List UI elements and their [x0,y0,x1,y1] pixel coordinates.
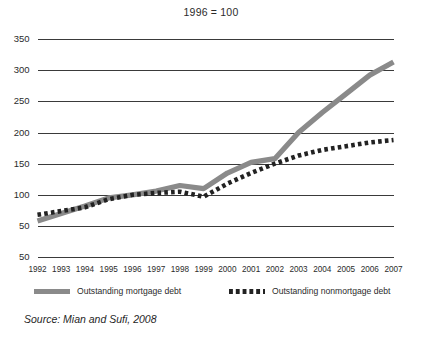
x-axis-tick-label: 1994 [76,265,95,274]
dotted-line-swatch-icon [229,289,265,294]
y-axis-tick-labels: 3503002502001501005050 [14,33,30,262]
y-axis-tick-label: 150 [14,158,30,169]
source-note: Source: Mian and Sufi, 2008 [24,313,157,325]
y-axis-tick-label: 50 [19,251,30,262]
legend-label-nonmortgage: Outstanding nonmortgage debt [272,286,391,296]
x-axis-tick-label: 2005 [337,265,356,274]
x-axis-tick-label: 1999 [195,265,214,274]
y-axis-tick-label: 100 [14,189,30,200]
x-axis-tick-label: 1993 [52,265,71,274]
x-axis-tick-label: 2002 [266,265,285,274]
x-axis-tick-label: 1995 [100,265,119,274]
x-axis-tick-label: 2007 [384,265,403,274]
data-series-line-1 [38,62,394,221]
x-axis-tick-label: 2003 [289,265,308,274]
chart-legend: Outstanding mortgage debt Outstanding no… [0,286,422,304]
x-axis-tick-label: 2006 [361,265,380,274]
y-axis-tick-label: 250 [14,95,30,106]
chart-figure: 1996 = 100 3503002502001501005050 199219… [0,0,422,337]
y-axis-tick-label: 300 [14,64,30,75]
y-axis-tick-label: 200 [14,127,30,138]
x-axis-tick-label: 2004 [313,265,332,274]
data-series-group [38,62,394,221]
legend-item-outstanding-mortgage-debt: Outstanding mortgage debt [34,286,181,296]
x-axis-tick-label: 1992 [28,265,47,274]
x-axis-tick-label: 2001 [242,265,261,274]
legend-label-mortgage: Outstanding mortgage debt [77,286,181,296]
y-axis-tick-label: 50 [19,220,30,231]
data-series-line-2 [38,140,394,215]
x-axis-tick-label: 1998 [171,265,190,274]
x-axis-tick-label: 1996 [123,265,142,274]
x-axis-tick-label: 1997 [147,265,166,274]
legend-item-outstanding-nonmortgage-debt: Outstanding nonmortgage debt [229,286,391,296]
solid-line-swatch-icon [34,289,70,294]
x-axis-tick-labels: 1992199319941995199619971998199920002001… [28,265,403,274]
y-axis-tick-label: 350 [14,33,30,44]
plot-area: 3503002502001501005050 19921993199419951… [0,0,422,280]
x-axis-tick-label: 2000 [218,265,237,274]
